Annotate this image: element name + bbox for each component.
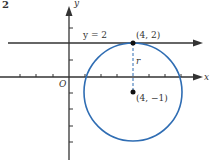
y-axis-label: y: [73, 0, 80, 8]
figure-number: 2: [2, 0, 9, 10]
x-axis-label: x: [204, 72, 209, 82]
center-point: [131, 90, 136, 95]
line-label: y = 2: [82, 30, 107, 40]
x-axis-arrow-icon: [193, 74, 203, 81]
origin-label: O: [59, 79, 67, 89]
center-label: (4, −1): [136, 93, 168, 103]
tangent-line-arrow-icon: [193, 40, 203, 47]
tangent-point-label: (4, 2): [136, 30, 160, 40]
y-axis-arrow-icon: [66, 6, 73, 16]
circle-tangent-diagram: 2 y x O y = 2 (4, 2) r (4, −1): [0, 0, 214, 163]
radius-label: r: [136, 56, 141, 66]
tangent-point: [131, 41, 136, 46]
